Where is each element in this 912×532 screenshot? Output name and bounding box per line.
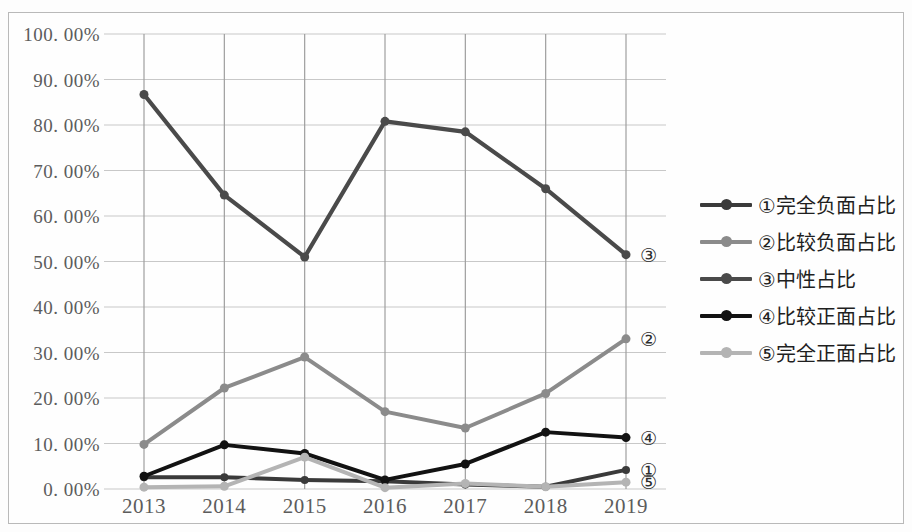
data-point-marker <box>140 440 149 449</box>
data-point-marker <box>220 191 229 200</box>
legend-item-s2[interactable]: ②比较负面占比 <box>700 223 904 260</box>
legend-item-s1[interactable]: ①完全负面占比 <box>700 186 904 223</box>
data-point-marker <box>541 184 550 193</box>
data-point-marker <box>140 483 149 492</box>
data-point-marker <box>381 117 390 126</box>
data-point-marker <box>622 334 631 343</box>
legend-item-label: ①完全负面占比 <box>758 190 896 219</box>
data-point-marker <box>381 407 390 416</box>
endpoint-annotation: ⑤ <box>640 473 657 492</box>
data-point-marker <box>220 383 229 392</box>
data-point-marker <box>300 453 309 462</box>
legend-marker-dot <box>721 310 732 321</box>
data-point-marker <box>381 483 390 492</box>
data-point-marker <box>301 476 309 484</box>
y-axis-tick-label: 80. 00% <box>33 116 100 135</box>
data-point-marker <box>140 90 149 99</box>
data-point-marker <box>622 466 630 474</box>
data-point-marker <box>622 433 631 442</box>
data-point-marker <box>461 424 470 433</box>
legend-marker-dot <box>721 236 732 247</box>
legend-item-label: ④比较正面占比 <box>758 301 896 330</box>
data-point-marker <box>622 478 631 487</box>
legend-swatch-icon <box>700 270 752 288</box>
data-point-marker <box>381 475 390 484</box>
data-point-marker <box>622 250 631 259</box>
x-axis-tick-label: 2019 <box>604 494 648 519</box>
x-axis-tick-label: 2018 <box>524 494 568 519</box>
legend-marker-dot <box>721 347 732 358</box>
data-point-marker <box>220 482 229 491</box>
data-point-marker <box>541 428 550 437</box>
plot-svg <box>104 34 666 489</box>
legend-item-label: ③中性占比 <box>758 264 856 293</box>
legend-marker-dot <box>721 199 732 210</box>
legend-marker-dot <box>721 273 732 284</box>
data-point-marker <box>300 252 309 261</box>
data-point-marker <box>300 353 309 362</box>
x-axis-tick-label: 2013 <box>122 494 166 519</box>
y-axis-tick-label: 20. 00% <box>33 389 100 408</box>
x-axis-tick-label: 2014 <box>202 494 246 519</box>
legend-item-s5[interactable]: ⑤完全正面占比 <box>700 334 904 371</box>
data-point-marker <box>541 482 550 491</box>
y-axis: 0. 00%10. 00%20. 00%30. 00%40. 00%50. 00… <box>8 0 100 532</box>
legend-swatch-icon <box>700 307 752 325</box>
plot-area <box>104 34 666 489</box>
x-axis-tick-label: 2016 <box>363 494 407 519</box>
y-axis-tick-label: 70. 00% <box>33 161 100 180</box>
y-axis-tick-label: 60. 00% <box>33 207 100 226</box>
x-axis-tick-label: 2015 <box>283 494 327 519</box>
y-axis-tick-label: 90. 00% <box>33 70 100 89</box>
endpoint-annotation: ② <box>640 329 657 348</box>
data-point-marker <box>461 127 470 136</box>
legend-item-label: ②比较负面占比 <box>758 227 896 256</box>
y-axis-tick-label: 100. 00% <box>23 25 100 44</box>
legend-swatch-icon <box>700 233 752 251</box>
chart-legend: ①完全负面占比②比较负面占比③中性占比④比较正面占比⑤完全正面占比 <box>700 186 904 371</box>
legend-item-label: ⑤完全正面占比 <box>758 338 896 367</box>
endpoint-annotation: ③ <box>640 245 657 264</box>
x-axis: 2013201420152016201720182019 <box>104 494 666 528</box>
y-axis-tick-label: 40. 00% <box>33 298 100 317</box>
legend-swatch-icon <box>700 344 752 362</box>
y-axis-tick-label: 0. 00% <box>43 480 100 499</box>
y-axis-tick-label: 50. 00% <box>33 252 100 271</box>
data-point-marker <box>220 440 229 449</box>
legend-swatch-icon <box>700 196 752 214</box>
data-point-marker <box>220 473 228 481</box>
data-point-marker <box>461 479 470 488</box>
legend-item-s4[interactable]: ④比较正面占比 <box>700 297 904 334</box>
endpoint-annotation: ④ <box>640 428 657 447</box>
y-axis-tick-label: 10. 00% <box>33 434 100 453</box>
data-point-marker <box>140 472 149 481</box>
data-point-marker <box>541 389 550 398</box>
legend-item-s3[interactable]: ③中性占比 <box>700 260 904 297</box>
chart-figure: 0. 00%10. 00%20. 00%30. 00%40. 00%50. 00… <box>0 0 912 532</box>
y-axis-tick-label: 30. 00% <box>33 343 100 362</box>
data-point-marker <box>461 459 470 468</box>
x-axis-tick-label: 2017 <box>443 494 487 519</box>
